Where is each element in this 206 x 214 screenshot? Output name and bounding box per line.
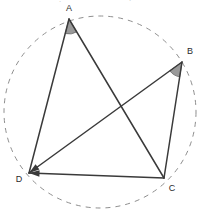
top-edge-artifact: · — [129, 0, 132, 5]
segment-DC — [29, 173, 164, 178]
vertex-label-c: C — [169, 183, 176, 193]
top-edge-artifact: · — [59, 0, 62, 6]
diagram-canvas: A B C D · · — [0, 0, 206, 214]
vertex-label-d: D — [16, 174, 23, 184]
segment-AD — [29, 19, 69, 173]
segment-BC — [164, 62, 182, 178]
segment-AC — [69, 19, 164, 178]
geometry-figure: A B C D · · — [0, 0, 206, 214]
vertex-label-a: A — [66, 3, 72, 13]
circumcircle-dashed — [4, 16, 196, 208]
vertex-label-b: B — [187, 46, 193, 56]
